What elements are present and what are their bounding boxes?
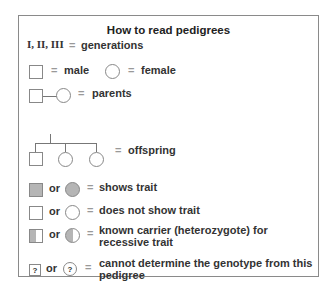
offspring-label: offspring <box>128 144 176 156</box>
parent-female-icon <box>56 88 71 103</box>
unknown-label-line2: pedigree <box>99 269 145 281</box>
male-label: male <box>64 64 89 76</box>
affected-male-icon <box>29 183 43 197</box>
or-label: or <box>46 262 57 274</box>
legend-title: How to read pedigrees <box>19 24 318 36</box>
unaffected-male-icon <box>29 206 43 220</box>
unaffected-female-icon <box>65 205 80 220</box>
or-label: or <box>49 228 60 240</box>
carrier-label-line2: recessive trait <box>99 236 173 248</box>
equals-sign: = <box>78 87 84 99</box>
carrier-female-icon <box>65 228 80 243</box>
unknown-label-line1: cannot determine the genotype from this <box>99 257 312 269</box>
offspring-line <box>65 143 66 152</box>
female-circle-icon <box>105 64 120 79</box>
equals-sign: = <box>87 204 93 216</box>
legend-box: How to read pedigrees I, II, III = gener… <box>18 15 319 277</box>
equals-sign: = <box>85 261 91 273</box>
generations-label: generations <box>81 39 143 51</box>
affected-female-icon <box>65 182 80 197</box>
offspring-line <box>96 143 97 152</box>
mating-line <box>43 96 57 97</box>
offspring-female-icon <box>58 152 73 167</box>
male-square-icon <box>29 65 43 79</box>
equals-sign: = <box>115 144 121 156</box>
parents-label: parents <box>92 87 132 99</box>
or-label: or <box>49 205 60 217</box>
carrier-label-line1: known carrier (heterozygote) for <box>99 224 268 236</box>
or-label: or <box>49 182 60 194</box>
equals-sign: = <box>69 39 75 51</box>
generation-numerals: I, II, III <box>27 38 64 50</box>
offspring-line <box>35 143 36 152</box>
sibship-stem <box>50 134 51 143</box>
carrier-male-icon <box>29 229 43 243</box>
unknown-male-icon: ? <box>29 264 41 276</box>
female-label: female <box>141 64 176 76</box>
offspring-female-icon <box>89 152 104 167</box>
equals-sign: = <box>51 64 57 76</box>
no-trait-label: does not show trait <box>99 204 200 216</box>
equals-sign: = <box>128 64 134 76</box>
parent-male-icon <box>29 89 43 103</box>
sibship-line <box>35 143 97 144</box>
shows-trait-label: shows trait <box>99 181 157 193</box>
unknown-female-icon: ? <box>63 262 77 276</box>
equals-sign: = <box>87 181 93 193</box>
offspring-male-icon <box>29 152 43 166</box>
equals-sign: = <box>87 227 93 239</box>
